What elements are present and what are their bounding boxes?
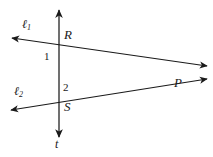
angle-label-1: 1	[44, 51, 50, 62]
geometry-figure: ℓ1 ℓ2 R 1 2 S P t	[0, 0, 213, 157]
angle-label-2: 2	[63, 82, 69, 93]
line-label-l1-subscript: 1	[27, 23, 31, 32]
line-l1	[12, 38, 207, 66]
line-label-t: t	[55, 138, 58, 150]
line-label-l1: ℓ1	[22, 18, 31, 32]
line-label-l2: ℓ2	[14, 85, 23, 99]
point-label-r: R	[64, 28, 72, 41]
point-label-s: S	[64, 100, 71, 113]
line-label-l2-subscript: 2	[19, 90, 23, 99]
point-label-p: P	[174, 76, 182, 89]
